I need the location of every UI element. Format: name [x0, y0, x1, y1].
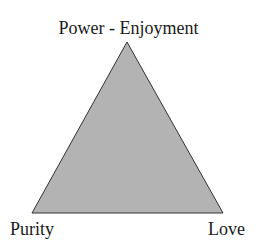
vertex-label-bottom-left: Purity [10, 220, 54, 238]
triangle-diagram: Power - Enjoyment Purity Love [0, 0, 257, 250]
vertex-label-top: Power - Enjoyment [0, 19, 257, 37]
vertex-label-bottom-right: Love [208, 220, 245, 238]
